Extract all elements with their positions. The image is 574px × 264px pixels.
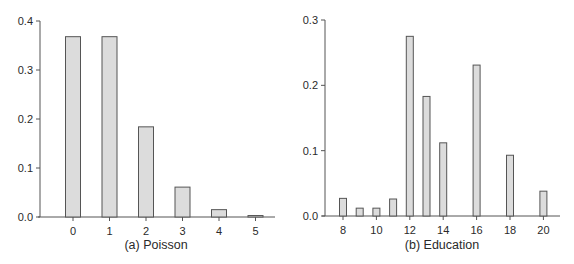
- poisson-chart: 0.00.10.20.30.4012345(a) Poisson: [0, 0, 290, 264]
- bar-1: [102, 37, 117, 217]
- x-tick-label: 12: [404, 224, 416, 236]
- bar-13: [423, 96, 430, 216]
- x-tick-label: 8: [340, 224, 346, 236]
- bar-14: [440, 143, 447, 216]
- bar-8: [340, 198, 347, 216]
- y-tick-label: 0.3: [18, 64, 33, 76]
- bar-9: [356, 208, 363, 216]
- x-tick-label: 0: [70, 225, 76, 237]
- x-tick-label: 3: [179, 225, 185, 237]
- chart-caption: (a) Poisson: [124, 238, 187, 252]
- x-tick-label: 4: [216, 225, 222, 237]
- x-tick-label: 18: [504, 224, 516, 236]
- x-tick-label: 5: [252, 225, 258, 237]
- y-tick-label: 0.1: [18, 162, 33, 174]
- y-tick-label: 0.0: [303, 210, 318, 222]
- education-chart: 0.00.10.20.38101214161820(b) Education: [290, 0, 574, 264]
- y-tick-label: 0.1: [303, 145, 318, 157]
- x-tick-label: 20: [537, 224, 549, 236]
- x-tick-label: 16: [470, 224, 482, 236]
- x-tick-label: 2: [143, 225, 149, 237]
- bar-20: [540, 191, 547, 216]
- chart-caption: (b) Education: [405, 238, 479, 252]
- y-tick-label: 0.0: [18, 211, 33, 223]
- bar-18: [507, 155, 514, 216]
- bar-2: [139, 127, 154, 217]
- y-tick-label: 0.2: [18, 113, 33, 125]
- bar-11: [390, 199, 397, 216]
- y-tick-label: 0.4: [18, 15, 33, 27]
- x-tick-label: 10: [370, 224, 382, 236]
- x-tick-label: 14: [437, 224, 449, 236]
- bar-4: [212, 210, 227, 217]
- x-tick-label: 1: [106, 225, 112, 237]
- bar-5: [248, 216, 263, 217]
- education-panel: 0.00.10.20.38101214161820(b) Education: [290, 0, 574, 264]
- bar-10: [373, 208, 380, 216]
- bar-0: [66, 37, 81, 217]
- bar-3: [175, 187, 190, 217]
- y-tick-label: 0.2: [303, 79, 318, 91]
- bar-16: [473, 65, 480, 216]
- poisson-panel: 0.00.10.20.30.4012345(a) Poisson: [0, 0, 290, 264]
- y-tick-label: 0.3: [303, 14, 318, 26]
- bar-12: [406, 36, 413, 216]
